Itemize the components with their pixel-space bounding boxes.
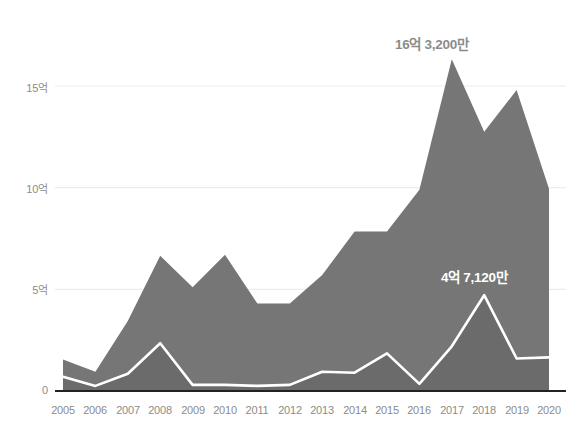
y-tick-label-10: 10억 bbox=[0, 180, 48, 196]
annotation-peak-inner: 4억 7,120만 bbox=[441, 266, 507, 286]
y-tick-label-15: 15억 bbox=[0, 79, 48, 95]
annotation-peak-outer: 16억 3,200만 bbox=[395, 33, 469, 53]
chart-container: 15억 10억 5억 0 2005 2006 2007 2008 2009 20… bbox=[0, 0, 582, 433]
area-chart-plot bbox=[0, 0, 582, 433]
y-tick-label-0: 0 bbox=[0, 384, 48, 396]
y-tick-label-5: 5억 bbox=[0, 281, 48, 297]
x-tick-label-2020: 2020 bbox=[519, 404, 579, 416]
